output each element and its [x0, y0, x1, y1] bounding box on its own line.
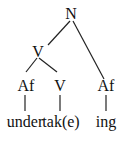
node-Af-prefix: Af — [18, 78, 35, 94]
edge-V-Af — [26, 58, 37, 72]
leaf-ing: ing — [96, 114, 116, 130]
leaf-take: tak(e) — [42, 114, 79, 130]
node-Af-suffix: Af — [98, 78, 115, 94]
leaf-under: under — [7, 114, 43, 130]
node-V: V — [32, 44, 44, 60]
node-N: N — [65, 6, 77, 22]
edge-V-V — [39, 58, 57, 72]
edge-N-V — [48, 21, 70, 45]
node-V-stem: V — [54, 78, 66, 94]
edge-N-Af — [73, 21, 104, 79]
